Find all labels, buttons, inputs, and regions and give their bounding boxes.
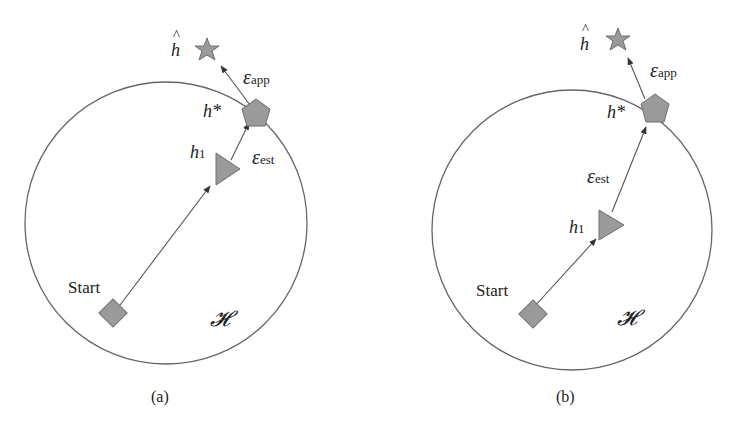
arrow-h1-to-hstar [231,123,249,160]
caption-a: (a) [151,388,169,406]
h1-triangle-icon [599,210,624,240]
eps-est-label: εest [252,146,275,168]
eps-est-label: εest [587,165,610,187]
panel-a: Start h1 h* h ^ εapp εest 𝓗 (a) [25,27,307,406]
hstar-pentagon-icon [242,99,270,126]
diagram-canvas: Start h1 h* h ^ εapp εest 𝓗 (a) Start h1… [0,0,737,431]
h1-label: h1 [569,217,585,237]
panel-b: Start h1 h* h ^ εapp εest 𝓗 (b) [432,21,712,406]
hstar-label: h* [203,101,221,121]
arrow-start-to-h1 [534,239,596,307]
start-label: Start [476,281,508,300]
hhat-label: h [171,40,180,60]
hhat-label: h [580,34,589,54]
arrow-hstar-to-hhat [628,58,645,99]
eps-app-label: εapp [243,66,270,88]
h1-triangle-icon [216,153,240,185]
start-diamond-icon [99,299,127,327]
hypothesis-space-label: 𝓗 [210,306,239,331]
arrow-h1-to-hstar [612,127,646,212]
hstar-label: h* [607,102,625,122]
hhat-star-icon [195,38,219,60]
hhat-hat-mark: ^ [173,27,180,43]
h1-label: h1 [190,142,206,162]
arrow-start-to-h1 [114,186,210,313]
hhat-hat-mark: ^ [582,21,589,37]
eps-app-label: εapp [650,59,677,81]
caption-b: (b) [556,388,575,406]
start-label: Start [68,278,100,297]
hypothesis-space-label: 𝓗 [617,305,646,330]
hhat-star-icon [606,28,630,50]
start-diamond-icon [519,300,547,328]
